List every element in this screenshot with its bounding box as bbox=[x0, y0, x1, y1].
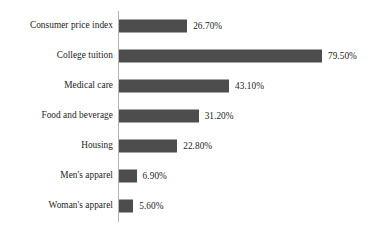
bar-track: 26.70% bbox=[119, 20, 373, 33]
category-label: Housing bbox=[81, 141, 113, 150]
category-label: Men's apparel bbox=[60, 171, 113, 180]
bar-track: 31.20% bbox=[119, 110, 373, 123]
category-label: Medical care bbox=[64, 81, 113, 90]
bar-track: 6.90% bbox=[119, 170, 373, 183]
table-row: Food and beverage 31.20% bbox=[0, 101, 373, 131]
bar-rows-container: Consumer price index 26.70% College tuit… bbox=[0, 11, 373, 222]
bar-medical-care bbox=[119, 80, 229, 93]
category-label: Food and beverage bbox=[41, 111, 113, 120]
value-label: 79.50% bbox=[328, 51, 357, 60]
table-row: Men's apparel 6.90% bbox=[0, 161, 373, 191]
value-label: 43.10% bbox=[235, 81, 264, 90]
value-label: 6.90% bbox=[143, 171, 167, 180]
table-row: Woman's apparel 5.60% bbox=[0, 191, 373, 221]
bar-track: 5.60% bbox=[119, 200, 373, 213]
value-label: 22.80% bbox=[183, 141, 212, 150]
bar-track: 22.80% bbox=[119, 140, 373, 153]
value-label: 5.60% bbox=[139, 201, 163, 210]
bar-housing bbox=[119, 140, 177, 153]
bar-track: 43.10% bbox=[119, 80, 373, 93]
bar-food-and-beverage bbox=[119, 110, 199, 123]
table-row: Medical care 43.10% bbox=[0, 71, 373, 101]
bar-consumer-price-index bbox=[119, 20, 187, 33]
table-row: Housing 22.80% bbox=[0, 131, 373, 161]
bar-college-tuition bbox=[119, 50, 322, 63]
bar-chart: Consumer price index 26.70% College tuit… bbox=[0, 0, 373, 234]
bar-track: 79.50% bbox=[119, 50, 373, 63]
value-label: 31.20% bbox=[205, 111, 234, 120]
table-row: Consumer price index 26.70% bbox=[0, 11, 373, 41]
table-row: College tuition 79.50% bbox=[0, 41, 373, 71]
category-label: Woman's apparel bbox=[49, 201, 113, 210]
bar-womans-apparel bbox=[119, 200, 133, 213]
category-label: College tuition bbox=[57, 51, 113, 60]
category-label: Consumer price index bbox=[30, 21, 113, 30]
value-label: 26.70% bbox=[193, 21, 222, 30]
bar-mens-apparel bbox=[119, 170, 137, 183]
